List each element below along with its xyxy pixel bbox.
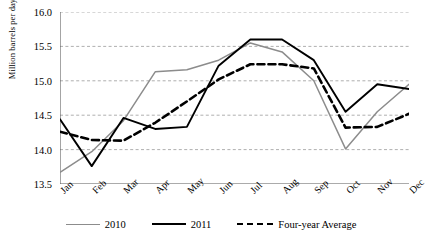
legend-item[interactable]: 2010	[66, 219, 126, 230]
legend-swatch	[66, 224, 100, 225]
plot-area	[60, 12, 409, 184]
series-line-2011	[60, 40, 409, 167]
x-axis-tick-label: Dec	[407, 177, 426, 196]
chart-legend: 20102011Four-year Average	[0, 214, 422, 234]
y-axis-tick-label: 13.5	[18, 179, 52, 190]
legend-label: Four-year Average	[278, 219, 356, 230]
y-axis-tick-labels: 16.015.515.014.514.013.5	[18, 0, 52, 239]
y-axis-tick-label: 15.0	[18, 75, 52, 86]
y-axis-tick-label: 15.5	[18, 41, 52, 52]
y-axis-title: Million barrels per day	[7, 0, 17, 109]
chart-svg	[60, 12, 409, 184]
legend-label: 2010	[105, 219, 126, 230]
legend-label: 2011	[191, 219, 212, 230]
legend-swatch	[237, 223, 273, 225]
legend-swatch	[152, 223, 186, 225]
y-axis-tick-label: 16.0	[18, 7, 52, 18]
series-line-2010	[60, 43, 409, 172]
legend-item[interactable]: 2011	[152, 219, 212, 230]
legend-item[interactable]: Four-year Average	[237, 219, 356, 230]
y-axis-tick-label: 14.0	[18, 144, 52, 155]
y-axis-tick-label: 14.5	[18, 110, 52, 121]
